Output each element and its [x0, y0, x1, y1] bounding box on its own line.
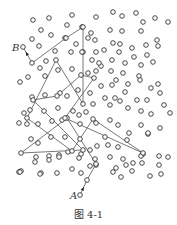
- node-circle: [86, 36, 91, 41]
- node-circle: [81, 148, 86, 153]
- node-circle: [49, 33, 54, 38]
- node-circle: [77, 113, 82, 118]
- node-circle: [79, 73, 84, 78]
- node-circle: [70, 13, 75, 18]
- node-circle: [123, 61, 128, 66]
- node-circle: [56, 106, 61, 111]
- node-circle: [76, 88, 81, 93]
- node-circle: [124, 163, 129, 168]
- node-circle: [63, 116, 68, 121]
- node-circle: [144, 43, 149, 48]
- node-circle: [29, 137, 34, 142]
- node-circle: [28, 108, 33, 113]
- node-circle: [108, 118, 113, 123]
- node-circle: [30, 37, 35, 42]
- node-circle: [34, 155, 39, 160]
- node-circle: [139, 123, 144, 128]
- node-circle: [123, 90, 128, 95]
- node-circle: [89, 31, 94, 36]
- node-circle: [158, 126, 163, 131]
- node-circle: [157, 154, 162, 159]
- node-circle: [70, 149, 75, 154]
- node-circle: [113, 96, 118, 101]
- node-circle: [156, 82, 161, 87]
- node-circle: [84, 110, 89, 115]
- node-circle: [121, 157, 126, 162]
- node-circle: [65, 23, 70, 28]
- node-circle: [25, 116, 30, 121]
- node-circle: [145, 53, 150, 58]
- node-circle: [78, 137, 83, 142]
- node-circle: [38, 66, 43, 71]
- node-circle: [81, 25, 86, 30]
- figure-caption: 图 4-1: [0, 206, 177, 221]
- node-circle: [53, 49, 58, 54]
- node-circle: [25, 122, 30, 127]
- node-circle: [93, 38, 98, 43]
- node-circle: [81, 102, 86, 107]
- node-circle: [43, 93, 48, 98]
- node-circle: [33, 160, 38, 165]
- node-circle: [36, 122, 41, 127]
- node-circle: [95, 144, 100, 149]
- node-circle: [37, 44, 42, 49]
- node-circle: [56, 68, 61, 73]
- node-circle: [70, 167, 75, 172]
- node-circle: [49, 135, 54, 140]
- node-circle: [120, 14, 125, 19]
- node-circle: [108, 103, 113, 108]
- node-circle: [97, 61, 102, 66]
- node-circle: [139, 109, 144, 114]
- node-circle: [94, 121, 99, 126]
- node-circle: [30, 61, 35, 66]
- node-circle: [85, 178, 90, 183]
- node-circle: [166, 155, 171, 160]
- node-circle: [108, 155, 113, 160]
- node-circle: [111, 41, 116, 46]
- node-circle: [70, 67, 75, 72]
- node-circle: [140, 161, 145, 166]
- node-circle: [17, 121, 22, 126]
- node-circle: [79, 171, 84, 176]
- node-circle: [50, 119, 55, 124]
- node-circle: [120, 29, 125, 34]
- node-circle: [108, 28, 113, 33]
- node-circle: [126, 82, 131, 87]
- arrowhead-icon: [81, 187, 84, 191]
- node-circle: [166, 20, 171, 25]
- node-circle: [159, 172, 164, 177]
- path-diagram: A B: [0, 0, 177, 225]
- node-circle: [77, 156, 82, 161]
- node-circle: [65, 94, 70, 99]
- node-circle: [155, 38, 160, 43]
- node-circle: [90, 58, 95, 63]
- node-circle: [149, 112, 154, 117]
- node-circle: [116, 145, 121, 150]
- node-circle: [47, 16, 52, 21]
- node-circle: [103, 135, 108, 140]
- node-field: [17, 10, 173, 198]
- node-circle: [106, 143, 111, 148]
- node-circle: [111, 10, 116, 15]
- node-circle: [43, 74, 48, 79]
- node-circle: [39, 28, 44, 33]
- node-circle: [36, 141, 41, 146]
- node-circle: [118, 42, 123, 47]
- node-circle: [94, 15, 99, 20]
- node-circle: [111, 170, 116, 175]
- node-circle: [116, 123, 121, 128]
- node-circle: [19, 151, 24, 156]
- node-circle: [38, 172, 43, 177]
- label-a: A: [69, 190, 77, 201]
- node-circle: [158, 91, 163, 96]
- node-circle: [94, 50, 99, 55]
- node-circle: [99, 84, 104, 89]
- node-circle: [18, 170, 23, 175]
- node-circle: [88, 148, 93, 153]
- node-circle: [139, 63, 144, 68]
- node-circle: [91, 102, 96, 107]
- node-circle: [47, 158, 52, 163]
- node-circle: [88, 91, 93, 96]
- node-circle: [151, 60, 156, 65]
- node-circle: [141, 20, 146, 25]
